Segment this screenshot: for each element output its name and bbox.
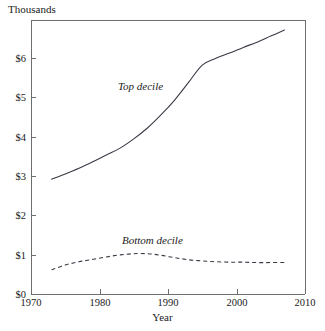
- x-axis-title: Year: [0, 311, 325, 324]
- series-line-bottom-decile: [52, 254, 285, 270]
- x-tick-label-2000: 2000: [220, 297, 254, 308]
- y-tick-label-4: $4: [4, 132, 26, 143]
- x-axis-ticks: [31, 289, 305, 294]
- y-tick-label-5: $5: [4, 92, 26, 103]
- y-tick-label-6: $6: [4, 53, 26, 64]
- x-tick-label-1970: 1970: [14, 297, 48, 308]
- axis-lines: [31, 20, 305, 294]
- x-tick-label-1990: 1990: [151, 297, 185, 308]
- x-tick-label-1980: 1980: [83, 297, 117, 308]
- y-tick-label-1: $1: [4, 250, 26, 261]
- x-tick-label-2010: 2010: [288, 297, 322, 308]
- y-tick-label-2: $2: [4, 210, 26, 221]
- y-axis-ticks: [31, 58, 36, 294]
- series-line-top-decile: [52, 30, 285, 179]
- plot-area: [0, 0, 325, 331]
- series-label-top-decile: Top decile: [118, 80, 163, 93]
- series-label-bottom-decile: Bottom decile: [122, 234, 183, 247]
- y-tick-label-3: $3: [4, 171, 26, 182]
- income-decile-line-chart: Thousands $0 $1 $2 $3 $4: [0, 0, 325, 331]
